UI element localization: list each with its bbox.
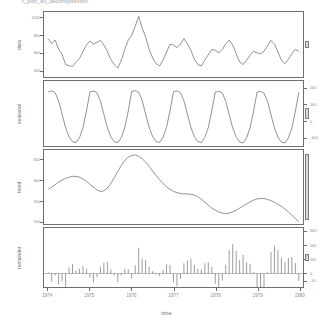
y-tickmark [40, 201, 43, 202]
y-tickmark [304, 273, 307, 274]
x-tick-1978: 1978 [211, 293, 221, 298]
plot-title: r_plot_stl_decomposition [22, 0, 88, 4]
x-tickmark [216, 288, 217, 291]
y-tickmark [304, 281, 307, 282]
y-tick-data: 800 [22, 33, 40, 38]
panel-data [43, 11, 304, 78]
y-tick-trend: 500 [22, 219, 40, 224]
y-tick-data: 1000 [22, 15, 40, 20]
y-tick-remainder: 0 [310, 271, 330, 276]
y-tickmark [304, 231, 307, 232]
stl-decomposition-plot: r_plot_stl_decomposition data40060080010… [0, 0, 333, 324]
x-tickmark [258, 288, 259, 291]
y-tickmark [304, 121, 307, 122]
y-tickmark [304, 104, 307, 105]
y-tick-data: 600 [22, 50, 40, 55]
x-tickmark [174, 288, 175, 291]
y-axis-label-seasonal: seasonal [16, 103, 22, 123]
panel-seasonal [43, 80, 304, 147]
y-tick-remainder: 200 [310, 243, 330, 248]
y-tick-trend: 600 [22, 178, 40, 183]
x-tick-1979: 1979 [253, 293, 263, 298]
y-tick-trend: 550 [22, 199, 40, 204]
y-tickmark [40, 71, 43, 72]
y-tickmark [40, 35, 43, 36]
y-tick-remainder: -50 [310, 278, 330, 283]
y-tickmark [304, 245, 307, 246]
y-axis-label-trend: trend [16, 182, 22, 193]
y-tickmark [40, 180, 43, 181]
x-tick-1975: 1975 [84, 293, 94, 298]
y-axis-label-data: data [16, 40, 22, 50]
x-tickmark [47, 288, 48, 291]
y-tick-data: 400 [22, 68, 40, 73]
y-tickmark [40, 159, 43, 160]
scale-bar-remainder [305, 254, 309, 262]
scale-bar-trend [305, 154, 309, 221]
x-tickmark [131, 288, 132, 291]
y-tickmark [304, 138, 307, 139]
y-tick-seasonal: 0 [310, 119, 330, 124]
x-tick-1976: 1976 [126, 293, 136, 298]
y-tick-seasonal: 200 [310, 85, 330, 90]
x-tick-1974: 1974 [42, 293, 52, 298]
y-tickmark [40, 53, 43, 54]
y-tick-trend: 650 [22, 157, 40, 162]
y-tickmark [40, 17, 43, 18]
panel-remainder [43, 227, 304, 288]
x-tick-1977: 1977 [168, 293, 178, 298]
x-axis-title: time [0, 310, 333, 316]
y-tick-remainder: 100 [310, 257, 330, 262]
panel-trend [43, 149, 304, 225]
y-tick-seasonal: -100 [310, 135, 330, 140]
y-tickmark [40, 222, 43, 223]
scale-bar-data [305, 41, 309, 48]
y-tickmark [304, 88, 307, 89]
y-tick-seasonal: 100 [310, 102, 330, 107]
x-tick-1980: 1980 [295, 293, 305, 298]
x-tickmark [300, 288, 301, 291]
y-axis-label-remainder: remainder [16, 246, 22, 269]
x-tickmark [89, 288, 90, 291]
scale-bar-seasonal [305, 108, 309, 119]
y-tick-remainder: 300 [310, 228, 330, 233]
